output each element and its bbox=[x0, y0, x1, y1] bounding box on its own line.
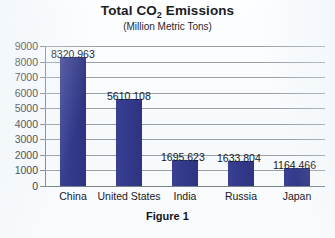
y-axis-tick bbox=[40, 186, 45, 187]
bar-value-label: 1695.623 bbox=[161, 152, 205, 162]
chart-title-subscript: 2 bbox=[157, 10, 162, 20]
chart-title-suffix: Emissions bbox=[162, 3, 234, 18]
chart-title: Total CO2 Emissions bbox=[0, 4, 335, 19]
bar-value-label: 1164.466 bbox=[273, 160, 316, 170]
bar bbox=[116, 99, 142, 186]
y-axis-tick-label: 3000 bbox=[0, 134, 38, 144]
y-axis-tick-label: 6000 bbox=[0, 88, 38, 98]
y-axis-tick-label: 2000 bbox=[0, 150, 38, 160]
bar-value-label: 1633.804 bbox=[217, 153, 261, 163]
figure-caption: Figure 1 bbox=[0, 210, 335, 222]
chart-figure: Total CO2 Emissions (Million Metric Tons… bbox=[0, 0, 335, 238]
gridline bbox=[45, 186, 325, 187]
bar-value-label: 5610.108 bbox=[107, 91, 151, 101]
bar bbox=[172, 160, 198, 186]
chart-title-prefix: Total CO bbox=[101, 3, 157, 18]
y-axis-tick-label: 7000 bbox=[0, 72, 38, 82]
y-axis-tick-label: 9000 bbox=[0, 41, 38, 51]
bar-value-label: 8320.963 bbox=[51, 49, 95, 59]
bar bbox=[228, 161, 254, 186]
y-axis-tick-label: 8000 bbox=[0, 57, 38, 67]
chart-subtitle: (Million Metric Tons) bbox=[0, 21, 335, 33]
bar bbox=[60, 57, 86, 186]
y-axis-tick-label: 4000 bbox=[0, 119, 38, 129]
y-axis-tick-label: 5000 bbox=[0, 103, 38, 113]
x-axis-category-label: Japan bbox=[257, 190, 335, 202]
y-axis-tick-label: 1000 bbox=[0, 165, 38, 175]
